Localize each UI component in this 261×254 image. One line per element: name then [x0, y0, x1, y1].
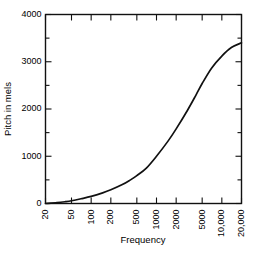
x-axis-ticks [46, 15, 242, 204]
x-tick-label: 100 [86, 210, 96, 225]
x-tick-label: 500 [131, 210, 141, 225]
x-tick-label: 20,000 [236, 210, 246, 238]
plot-frame [46, 15, 242, 204]
y-tick-label: 0 [36, 198, 41, 208]
x-tick-label: 50 [66, 210, 76, 220]
x-tick-label: 10,000 [216, 210, 226, 238]
y-tick-label: 4000 [21, 9, 41, 19]
x-axis-title: Frequency [121, 234, 166, 245]
x-tick-label: 5000 [197, 210, 207, 230]
chart-svg: 01000200030004000 2050100200500100020005… [0, 0, 261, 254]
mel-scale-chart: 01000200030004000 2050100200500100020005… [0, 0, 261, 254]
y-tick-label: 3000 [21, 56, 41, 66]
x-tick-label: 1000 [151, 210, 161, 230]
x-tick-label: 20 [40, 210, 50, 220]
y-axis-ticks [46, 15, 242, 204]
x-axis-tick-labels: 205010020050010002000500010,00020,000 [40, 210, 246, 238]
mel-curve [46, 43, 242, 204]
y-axis-minor-ticks [46, 38, 242, 180]
y-tick-label: 1000 [21, 151, 41, 161]
x-tick-label: 2000 [171, 210, 181, 230]
y-axis-tick-labels: 01000200030004000 [21, 9, 41, 208]
y-tick-label: 2000 [21, 103, 41, 113]
x-tick-label: 200 [105, 210, 115, 225]
y-axis-title: Pitch in mels [2, 82, 13, 136]
